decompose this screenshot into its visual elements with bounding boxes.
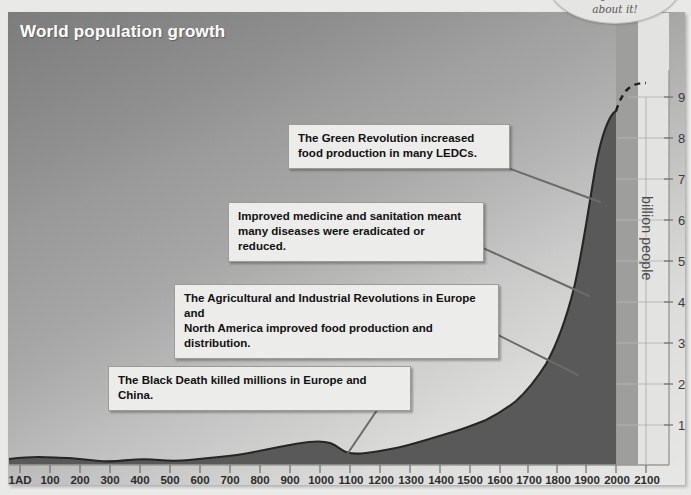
y-tick-label: 3 bbox=[678, 336, 685, 351]
x-tick-label: 1000 bbox=[308, 474, 334, 486]
x-tick-label: 600 bbox=[190, 474, 209, 486]
x-tick-label: 2000 bbox=[604, 474, 630, 486]
annotation-green-revolution: The Green Revolution increased food prod… bbox=[288, 124, 510, 169]
annotation-agricultural-industrial-revolutions: The Agricultural and Industrial Revoluti… bbox=[174, 284, 499, 359]
y-tick-label: 6 bbox=[678, 213, 685, 228]
x-tick-label: 900 bbox=[280, 474, 299, 486]
y-axis-label: billion people bbox=[639, 196, 655, 281]
x-tick-label: 200 bbox=[70, 474, 89, 486]
badge-text-line-1: hen you think bbox=[549, 0, 681, 1]
annotation-black-death: The Black Death killed millions in Europ… bbox=[108, 366, 411, 411]
annotation-medicine-sanitation: Improved medicine and sanitation meant m… bbox=[228, 202, 484, 262]
x-tick-label: 500 bbox=[160, 474, 179, 486]
y-tick-label: 8 bbox=[678, 131, 685, 146]
x-tick-label: 1400 bbox=[428, 474, 454, 486]
x-tick-label: 1100 bbox=[339, 474, 364, 486]
y-tick-label: 2 bbox=[678, 377, 685, 392]
x-tick-label: 1AD bbox=[8, 474, 31, 486]
y-tick-label: 1 bbox=[678, 418, 685, 433]
y-tick-label: 7 bbox=[678, 172, 685, 187]
y-tick-label: 9 bbox=[678, 90, 685, 105]
x-tick-label: 1800 bbox=[545, 474, 571, 486]
x-tick-label: 700 bbox=[220, 474, 239, 486]
x-tick-label: 300 bbox=[100, 474, 119, 486]
projection-band-inner bbox=[616, 13, 638, 465]
x-tick-label: 1600 bbox=[487, 474, 513, 486]
x-tick-label: 800 bbox=[250, 474, 269, 486]
x-tick-label: 100 bbox=[40, 474, 59, 486]
x-tick-label: 2100 bbox=[634, 474, 660, 486]
x-tick-label: 1500 bbox=[457, 474, 483, 486]
y-tick-label: 5 bbox=[678, 254, 685, 269]
badge-text-line-2: about it! bbox=[549, 3, 681, 15]
chart-title: World population growth bbox=[20, 22, 225, 42]
x-tick-label: 1900 bbox=[574, 474, 600, 486]
population-growth-figure: World population growth billion people 1… bbox=[0, 0, 691, 495]
x-tick-label: 1200 bbox=[368, 474, 394, 486]
x-tick-label: 1700 bbox=[516, 474, 542, 486]
y-tick-label: 4 bbox=[678, 295, 685, 310]
x-tick-label: 1300 bbox=[398, 474, 424, 486]
x-axis-ticks bbox=[20, 465, 646, 473]
x-tick-label: 400 bbox=[130, 474, 149, 486]
